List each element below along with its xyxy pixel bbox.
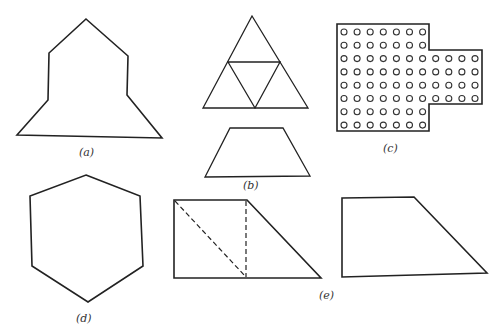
- panel-b: (b): [203, 16, 310, 192]
- grid-circle: [341, 29, 347, 35]
- grid-circle: [380, 56, 386, 62]
- grid-circle: [341, 82, 347, 88]
- grid-circle: [459, 82, 465, 88]
- grid-circle: [407, 56, 413, 62]
- grid-circle: [420, 29, 426, 35]
- grid-circle: [433, 96, 439, 102]
- trapezoid-e-left: [174, 200, 321, 278]
- grid-circle: [420, 42, 426, 48]
- panel-a: (a): [17, 19, 162, 159]
- grid-circle: [472, 96, 478, 102]
- grid-circle: [341, 109, 347, 115]
- grid-circle: [393, 82, 399, 88]
- grid-circle: [380, 82, 386, 88]
- grid-circle: [433, 82, 439, 88]
- grid-circle: [354, 56, 360, 62]
- grid-circle: [420, 109, 426, 115]
- grid-circle: [459, 96, 465, 102]
- grid-circle: [393, 109, 399, 115]
- grid-circle: [354, 42, 360, 48]
- inner-triangle: [228, 62, 280, 108]
- grid-circle: [354, 29, 360, 35]
- figure-canvas: (a) (b) (c) (d) (e): [0, 0, 503, 332]
- grid-circle: [407, 82, 413, 88]
- grid-circle: [341, 96, 347, 102]
- dashed-diagonal: [175, 201, 246, 277]
- grid-circle: [407, 42, 413, 48]
- panel-e: (e): [174, 197, 487, 302]
- trapezoid-b: [205, 128, 310, 177]
- grid-circle: [446, 56, 452, 62]
- grid-circle: [380, 69, 386, 75]
- grid-circle: [367, 122, 373, 128]
- house-shape: [17, 19, 162, 138]
- label-e: (e): [319, 289, 334, 302]
- grid-circle: [420, 82, 426, 88]
- grid-circle: [407, 29, 413, 35]
- grid-circle: [354, 122, 360, 128]
- grid-circle: [354, 109, 360, 115]
- grid-circle: [407, 96, 413, 102]
- grid-circle: [459, 69, 465, 75]
- grid-circle: [472, 69, 478, 75]
- grid-circle: [393, 122, 399, 128]
- grid-circle: [472, 82, 478, 88]
- grid-circle: [407, 69, 413, 75]
- grid-circle: [380, 122, 386, 128]
- grid-circle: [380, 109, 386, 115]
- grid-circle: [341, 56, 347, 62]
- grid-circle: [367, 96, 373, 102]
- grid-circle: [459, 56, 465, 62]
- grid-circle: [393, 42, 399, 48]
- grid-circle: [472, 56, 478, 62]
- grid-circle: [393, 29, 399, 35]
- panel-d: (d): [30, 175, 143, 325]
- grid-circle: [420, 69, 426, 75]
- grid-circle: [393, 96, 399, 102]
- grid-circle: [354, 96, 360, 102]
- grid-circle: [446, 96, 452, 102]
- panel-c: (c): [337, 24, 482, 155]
- label-c: (c): [383, 142, 398, 155]
- grid-circle: [341, 42, 347, 48]
- grid-circle: [420, 56, 426, 62]
- circle-grid: [341, 29, 478, 128]
- grid-circle: [341, 69, 347, 75]
- grid-circle: [354, 82, 360, 88]
- grid-circle: [393, 56, 399, 62]
- grid-circle: [380, 42, 386, 48]
- grid-circle: [433, 56, 439, 62]
- grid-circle: [393, 69, 399, 75]
- grid-circle: [354, 69, 360, 75]
- hexagon: [30, 175, 143, 302]
- grid-circle: [407, 122, 413, 128]
- label-a: (a): [79, 146, 94, 159]
- grid-circle: [367, 42, 373, 48]
- grid-circle: [420, 96, 426, 102]
- grid-circle: [367, 109, 373, 115]
- grid-circle: [367, 69, 373, 75]
- grid-circle: [433, 69, 439, 75]
- grid-circle: [380, 29, 386, 35]
- grid-circle: [446, 69, 452, 75]
- trapezoid-e-right: [342, 197, 487, 277]
- label-b: (b): [243, 179, 259, 192]
- label-d: (d): [76, 312, 92, 325]
- grid-circle: [367, 56, 373, 62]
- grid-circle: [380, 96, 386, 102]
- grid-circle: [367, 29, 373, 35]
- grid-circle: [407, 109, 413, 115]
- grid-circle: [446, 82, 452, 88]
- grid-circle: [367, 82, 373, 88]
- grid-circle: [341, 122, 347, 128]
- grid-circle: [420, 122, 426, 128]
